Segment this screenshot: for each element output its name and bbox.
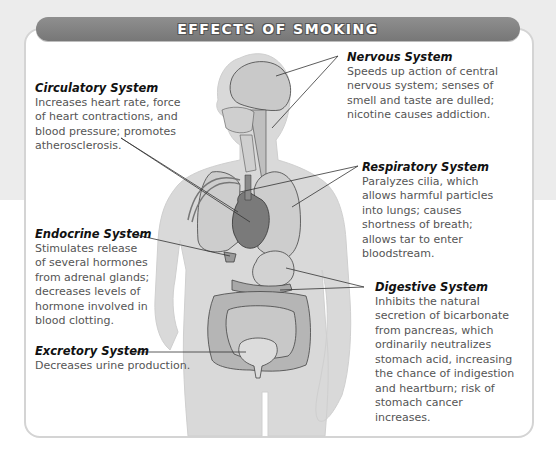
nervous-line: Speeds up action of central [347, 65, 498, 80]
digestive-line: increases. [375, 411, 514, 426]
nervous-system-callout: Nervous System Speeds up action of centr… [347, 50, 498, 123]
digestive-system-callout: Digestive System Inhibits the natural se… [375, 280, 514, 425]
circulatory-heading: Circulatory System [35, 81, 181, 96]
endocrine-line: from adrenal glands; [35, 271, 152, 286]
nervous-line: smell and taste are dulled; [347, 94, 498, 109]
excretory-system-callout: Excretory System Decreases urine product… [35, 344, 190, 373]
endocrine-line: blood clotting. [35, 314, 152, 329]
respiratory-line: Paralyzes cilia, which [362, 175, 493, 190]
endocrine-line: hormone involved in [35, 300, 152, 315]
excretory-line: Decreases urine production. [35, 359, 190, 374]
digestive-line: the chance of indigestion [375, 367, 514, 382]
endocrine-system-callout: Endocrine System Stimulates release of s… [35, 227, 152, 329]
respiratory-heading: Respiratory System [362, 160, 493, 175]
digestive-line: and heartburn; risk of [375, 382, 514, 397]
respiratory-line: bloodstream. [362, 247, 493, 262]
nervous-heading: Nervous System [347, 50, 498, 65]
respiratory-line: allows tar to enter [362, 233, 493, 248]
circulatory-line: Increases heart rate, force [35, 96, 181, 111]
respiratory-line: shortness of breath; [362, 218, 493, 233]
digestive-line: secretion of bicarbonate [375, 309, 514, 324]
circulatory-line: blood pressure; promotes [35, 125, 181, 140]
digestive-line: stomach cancer [375, 396, 514, 411]
digestive-line: Inhibits the natural [375, 295, 514, 310]
respiratory-system-callout: Respiratory System Paralyzes cilia, whic… [362, 160, 493, 262]
endocrine-line: Stimulates release [35, 242, 152, 257]
digestive-heading: Digestive System [375, 280, 514, 295]
digestive-line: from pancreas, which [375, 324, 514, 339]
excretory-heading: Excretory System [35, 344, 190, 359]
circulatory-line: atherosclerosis. [35, 139, 181, 154]
nervous-line: nervous system; senses of [347, 79, 498, 94]
circulatory-system-callout: Circulatory System Increases heart rate,… [35, 81, 181, 154]
respiratory-line: into lungs; causes [362, 204, 493, 219]
nervous-line: nicotine causes addiction. [347, 108, 498, 123]
endocrine-heading: Endocrine System [35, 227, 152, 242]
endocrine-line: decreases levels of [35, 285, 152, 300]
digestive-line: stomach acid, increasing [375, 353, 514, 368]
circulatory-line: of heart contractions, and [35, 110, 181, 125]
endocrine-line: of several hormones [35, 256, 152, 271]
respiratory-line: allows harmful particles [362, 189, 493, 204]
digestive-line: ordinarily neutralizes [375, 338, 514, 353]
